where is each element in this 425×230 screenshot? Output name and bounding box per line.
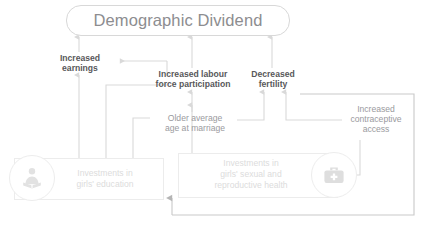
node-increased-contraceptive-access: Increased contraceptive access <box>340 104 412 134</box>
medical-bag-icon <box>311 152 357 198</box>
node-increased-earnings: Increased earnings <box>40 53 120 73</box>
line-education-to-marriage <box>133 118 150 158</box>
node-older-average-age-at-marriage: Older average age at marriage <box>152 113 238 133</box>
page-title: Demographic Dividend <box>94 11 263 30</box>
arrow-marriage-to-fertility <box>237 92 264 120</box>
arrow-contraceptive-to-fertility <box>286 92 342 120</box>
node-increased-labour-force-participation: Increased labour force participation <box>148 69 238 89</box>
box-investments-girls-sexual-reproductive-health-label: Investments in girls' sexual and reprodu… <box>190 158 312 191</box>
box-investments-girls-education-label: Investments in girls' education <box>50 168 160 190</box>
title-capsule: Demographic Dividend <box>66 5 290 36</box>
node-decreased-fertility: Decreased fertility <box>240 69 306 89</box>
student-reading-book-icon <box>9 155 55 201</box>
diagram-canvas: Demographic Dividend Increased earnings … <box>0 0 425 230</box>
